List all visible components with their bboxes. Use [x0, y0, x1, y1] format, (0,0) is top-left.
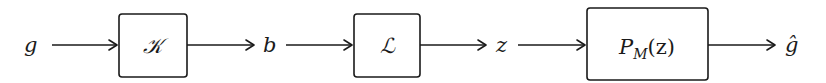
arrow-z-to-p — [518, 40, 585, 50]
arrow-p-to-ghat — [708, 40, 775, 50]
arrow-k-to-b — [187, 40, 254, 50]
signal-ghat-label: ĝ — [785, 33, 798, 57]
arrow-g-to-k — [52, 40, 117, 50]
block-diagram: g 𝒦 b ℒ z PM(z) — [0, 0, 826, 83]
block-k: 𝒦 — [119, 14, 187, 77]
arrow-l-to-z — [420, 40, 486, 50]
block-l-label: ℒ — [380, 34, 396, 58]
signal-z-label: z — [495, 33, 508, 57]
signal-g-label: g — [24, 33, 37, 57]
block-l: ℒ — [354, 14, 420, 77]
arrow-b-to-l — [286, 40, 352, 50]
block-p: PM(z) — [587, 8, 708, 80]
signal-b-label: b — [263, 33, 276, 57]
